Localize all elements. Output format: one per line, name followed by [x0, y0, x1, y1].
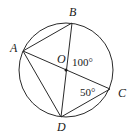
label-b: B — [69, 5, 77, 19]
segment-ad — [23, 51, 61, 117]
label-d: D — [56, 120, 66, 134]
label-c: C — [118, 86, 127, 100]
geometry-diagram: A B C D O 100° 50° — [0, 0, 132, 140]
angle-label-50: 50° — [80, 86, 95, 98]
label-a: A — [9, 41, 18, 55]
center-point-o — [65, 69, 68, 72]
angle-label-100: 100° — [72, 56, 93, 68]
diagram-canvas: A B C D O 100° 50° — [0, 0, 132, 140]
label-o: O — [57, 52, 66, 66]
